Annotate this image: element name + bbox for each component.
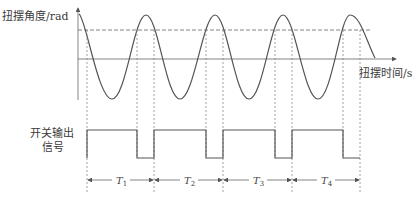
period-label-t4: T4 [321, 175, 333, 188]
period-label-t3: T3 [253, 175, 264, 188]
guide-lines [87, 30, 360, 192]
waveform-canvas: T1 T2 T3 T4 [0, 0, 419, 207]
switch-output-signal [87, 130, 360, 158]
oscillation-curve [79, 14, 375, 99]
period-label-t1: T1 [116, 175, 127, 188]
period-label-t2: T2 [184, 175, 195, 188]
